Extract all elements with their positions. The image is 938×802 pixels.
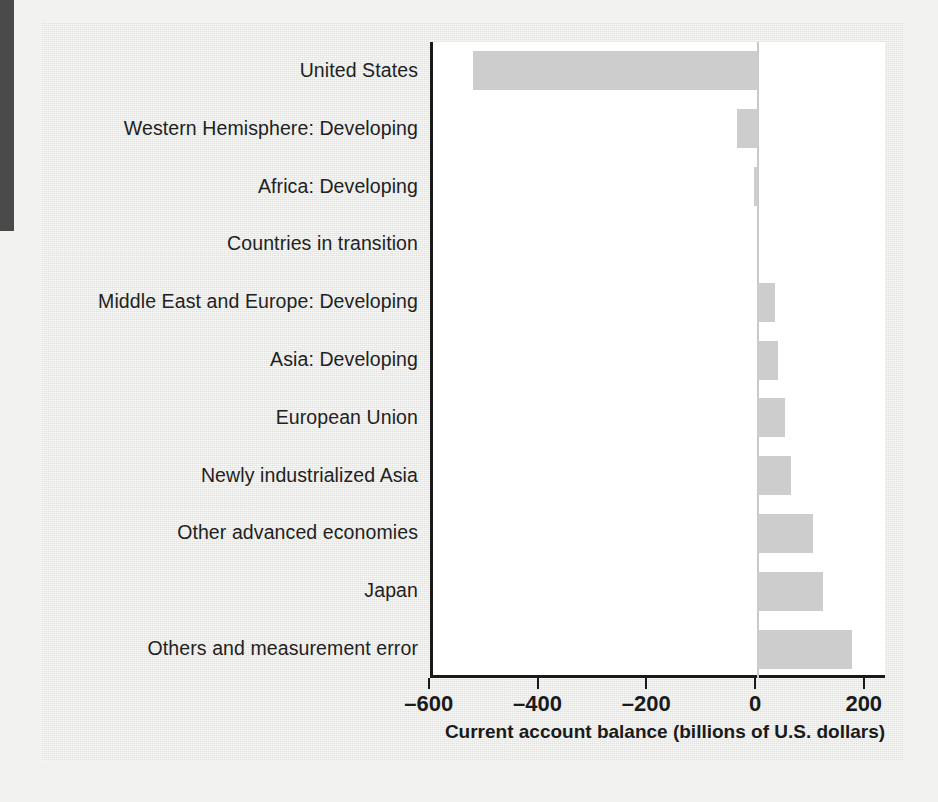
x-axis-tick-label: –200 <box>586 693 706 715</box>
category-label: Newly industrialized Asia <box>60 466 418 486</box>
plot-area <box>430 42 885 678</box>
plot-inner <box>433 42 888 678</box>
bar <box>758 398 785 437</box>
category-label: Other advanced economies <box>60 523 418 543</box>
page-edge-artifact <box>0 0 14 231</box>
x-axis-tick-label: 200 <box>804 693 924 715</box>
x-axis-title: Current account balance (billions of U.S… <box>430 722 900 741</box>
category-label: Others and measurement error <box>60 639 418 659</box>
category-label: United States <box>60 61 418 81</box>
bar <box>758 283 775 322</box>
x-axis-tick <box>754 678 756 689</box>
bar <box>754 167 758 206</box>
x-axis-tick-label: –400 <box>478 693 598 715</box>
category-label: Japan <box>60 581 418 601</box>
bar <box>737 109 758 148</box>
category-label: Asia: Developing <box>60 350 418 370</box>
category-label: Middle East and Europe: Developing <box>60 292 418 312</box>
x-axis-tick <box>645 678 647 689</box>
x-axis-tick-label: 0 <box>695 693 815 715</box>
bar <box>758 630 852 669</box>
x-axis-tick <box>537 678 539 689</box>
category-label: European Union <box>60 408 418 428</box>
bar <box>758 514 813 553</box>
x-axis-tick <box>428 678 430 689</box>
bar <box>758 456 791 495</box>
category-label: Africa: Developing <box>60 177 418 197</box>
category-label: Countries in transition <box>60 234 418 254</box>
bar <box>758 341 778 380</box>
bar <box>473 51 758 90</box>
x-axis-tick <box>863 678 865 689</box>
category-label: Western Hemisphere: Developing <box>60 119 418 139</box>
x-axis-tick-label: –600 <box>369 693 489 715</box>
figure-page: United StatesWestern Hemisphere: Develop… <box>0 0 938 802</box>
category-label-column: United StatesWestern Hemisphere: Develop… <box>60 42 418 678</box>
bar <box>758 572 823 611</box>
